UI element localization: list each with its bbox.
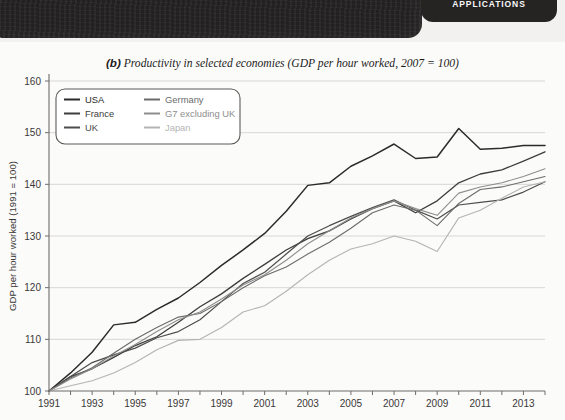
x-tick-label: 1997	[167, 398, 190, 409]
y-tick-labels: 100110120130140150160	[24, 76, 41, 397]
y-tick-label: 140	[24, 179, 41, 190]
series-line-france	[49, 152, 545, 391]
x-tick-label: 1999	[210, 398, 233, 409]
chart-card: (b) Productivity in selected economies (…	[0, 42, 565, 420]
x-tick-label: 2003	[297, 398, 320, 409]
x-tick-label: 2007	[383, 398, 406, 409]
x-tick-label: 1993	[81, 398, 104, 409]
x-tick-label: 2001	[254, 398, 277, 409]
y-tick-label: 150	[24, 127, 41, 138]
x-tick-label: 2005	[340, 398, 363, 409]
y-tick-label: 110	[25, 334, 41, 345]
y-tick-label: 130	[24, 231, 41, 242]
y-axis-title: GDP per hour worked (1991 = 100)	[7, 161, 18, 311]
legend-label-japan: Japan	[165, 122, 191, 133]
section-tab: AND APPLICATIONS APPLICATIONS	[421, 0, 557, 22]
series-line-g7-excluding-uk	[49, 169, 545, 391]
page-header-banner	[0, 0, 422, 38]
y-tick-label: 120	[24, 282, 41, 293]
x-tick-label: 2013	[512, 398, 535, 409]
section-tab-label: APPLICATIONS	[421, 0, 557, 9]
series-group	[49, 129, 545, 391]
chart-legend: USAFranceUKGermanyG7 excluding UKJapan	[56, 89, 240, 144]
line-chart-plot: 100110120130140150160 199119931995199719…	[0, 42, 565, 420]
legend-label-usa: USA	[85, 94, 105, 105]
x-tick-label: 2009	[426, 398, 449, 409]
y-axis-title-group: GDP per hour worked (1991 = 100)	[7, 161, 18, 311]
legend-label-germany: Germany	[165, 94, 204, 105]
y-tick-label: 160	[24, 76, 41, 87]
x-tick-label: 2011	[470, 398, 492, 409]
legend-label-g7-excluding-uk: G7 excluding UK	[165, 108, 236, 119]
series-line-japan	[49, 182, 545, 391]
x-tick-label: 1991	[38, 398, 61, 409]
x-tick-label: 1995	[124, 398, 147, 409]
x-tick-labels: 1991199319951997199920012003200520072009…	[38, 398, 535, 409]
legend-label-uk: UK	[85, 122, 99, 133]
legend-label-france: France	[85, 108, 114, 119]
y-tick-label: 100	[24, 386, 41, 397]
series-line-germany	[49, 177, 545, 391]
